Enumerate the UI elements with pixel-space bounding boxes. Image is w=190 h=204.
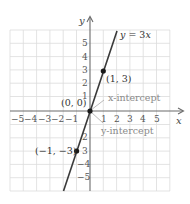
x-tick: −4	[24, 114, 38, 124]
y-tick: −5	[77, 172, 91, 182]
y-tick: 4	[82, 52, 88, 62]
axes	[10, 17, 184, 192]
y-intercept-label: y-intercept	[100, 125, 154, 136]
y-tick: 3	[82, 146, 88, 156]
x-tick: 1	[101, 114, 107, 124]
point-label-origin: (0, 0)	[61, 97, 87, 108]
x-tick: 4	[140, 114, 146, 124]
point-label-neg1-neg3: (−1, −3)	[35, 145, 76, 156]
x-axis-label: x	[176, 115, 182, 126]
point-label-1-3: (1, 3)	[106, 73, 132, 84]
y-tick: 5	[82, 38, 88, 48]
x-tick: −1	[65, 114, 78, 124]
graph-canvas: x y −5 −4 −3 −2 −1 1 2 3 4 5 5 4 3 2 1 2…	[0, 0, 190, 204]
x-tick: 5	[154, 114, 160, 124]
y-tick: 2	[82, 78, 88, 88]
x-tick: 2	[114, 114, 120, 124]
y-tick: 3	[82, 65, 88, 75]
x-intercept-label: x-intercept	[108, 92, 161, 103]
y-tick: −4	[77, 159, 91, 169]
x-tick: 3	[127, 114, 133, 124]
x-tick: −5	[11, 114, 25, 124]
x-tick: −3	[38, 114, 52, 124]
equation-label: y = 3x	[119, 29, 151, 40]
point-origin	[87, 108, 92, 113]
x-tick: −2	[51, 114, 64, 124]
y-axis-label: y	[78, 15, 85, 26]
x-tick-labels: −5 −4 −3 −2 −1 1 2 3 4 5	[11, 114, 160, 124]
